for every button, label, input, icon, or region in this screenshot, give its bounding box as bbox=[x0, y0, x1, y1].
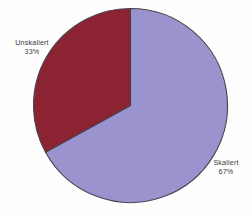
pie-label-skaliert-value: 67% bbox=[204, 168, 248, 177]
pie-chart-canvas bbox=[0, 0, 252, 215]
pie-label-unskaliert: Unskaliert 33% bbox=[10, 39, 54, 56]
pie-label-skaliert: Skaliert 67% bbox=[204, 159, 248, 176]
pie-chart: Unskaliert 33% Skaliert 67% bbox=[0, 0, 252, 215]
pie-label-unskaliert-value: 33% bbox=[10, 48, 54, 57]
